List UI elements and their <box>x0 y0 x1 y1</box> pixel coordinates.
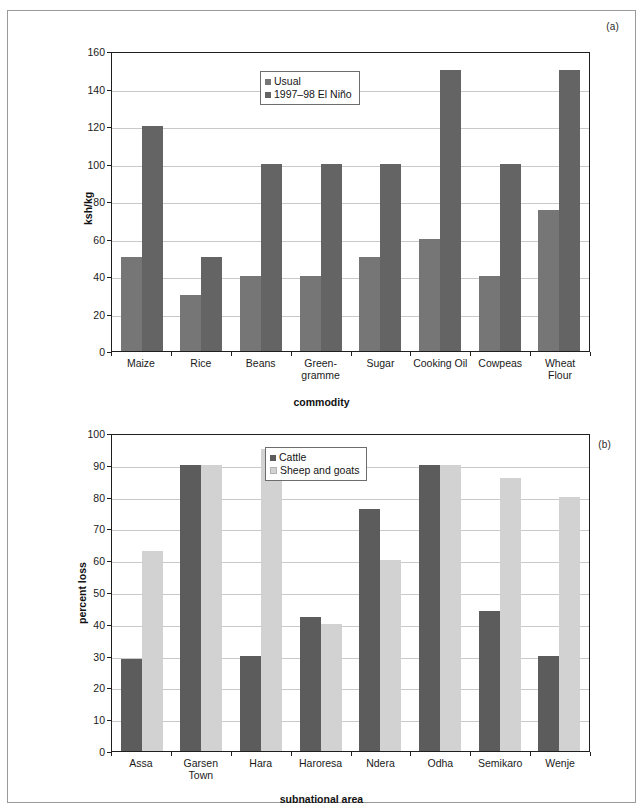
legend-swatch-usual <box>265 79 271 85</box>
bar <box>121 257 142 351</box>
legend-item: Cattle <box>270 451 359 464</box>
bar <box>240 656 261 751</box>
bar-group <box>172 435 232 751</box>
x-axis-tick-mark <box>231 352 232 356</box>
x-axis-tick-mark <box>351 352 352 356</box>
x-axis-tick-label: Green- gramme <box>291 357 351 381</box>
x-axis-tick-mark <box>231 752 232 756</box>
y-axis-tick-label: 80 <box>75 492 105 503</box>
bar <box>500 478 521 751</box>
bar <box>180 295 201 351</box>
bar-groups-b <box>112 435 589 751</box>
y-axis-tick-label: 10 <box>75 715 105 726</box>
y-axis-tick-label: 40 <box>75 620 105 631</box>
y-axis-tick-label: 120 <box>75 122 105 133</box>
x-axis-tick-mark <box>590 352 591 356</box>
x-axis-tick-mark <box>351 752 352 756</box>
y-axis-tick-label: 90 <box>75 461 105 472</box>
y-axis-tick-label: 40 <box>75 272 105 283</box>
plot-area-a: Usual 1997–98 El Niño <box>111 52 590 352</box>
x-axis-tick-label: Rice <box>171 357 231 381</box>
y-axis-tick-label: 60 <box>75 556 105 567</box>
legend-label-cattle: Cattle <box>279 451 306 464</box>
x-axis-labels-b: AssaGarsen TownHaraHaroresaNderaOdhaSemi… <box>111 757 590 781</box>
x-axis-tick-mark <box>410 352 411 356</box>
bar <box>321 164 342 352</box>
x-axis-tick-mark <box>530 352 531 356</box>
bar-group <box>291 435 351 751</box>
bar <box>440 465 461 751</box>
x-axis-tick-mark <box>111 352 112 356</box>
panel-label-b: (b) <box>598 439 611 450</box>
bar <box>300 617 321 751</box>
bar <box>419 239 440 352</box>
bar-group <box>470 435 530 751</box>
plot-area-b: Cattle Sheep and goats <box>111 434 590 752</box>
bar <box>440 70 461 351</box>
bar-group <box>112 53 172 351</box>
y-axis-tick-label: 160 <box>75 47 105 58</box>
x-axis-tick-label: Wenje <box>530 757 590 781</box>
legend-a: Usual 1997–98 El Niño <box>260 71 360 105</box>
x-axis-tick-label: Semikaro <box>470 757 530 781</box>
bar <box>261 449 282 751</box>
bar <box>201 465 222 751</box>
bar <box>142 126 163 351</box>
y-axis-tick-label: 60 <box>75 234 105 245</box>
legend-b: Cattle Sheep and goats <box>265 447 367 481</box>
bar-group <box>410 435 470 751</box>
x-axis-tick-label: Maize <box>111 357 171 381</box>
bar-group <box>172 53 232 351</box>
bar-group <box>231 435 291 751</box>
legend-item: Sheep and goats <box>270 464 359 477</box>
x-axis-tick-label: Haroresa <box>291 757 351 781</box>
bar-group <box>112 435 172 751</box>
x-axis-tick-mark <box>590 752 591 756</box>
x-axis-tick-mark <box>530 752 531 756</box>
x-axis-tick-label: Cowpeas <box>470 357 530 381</box>
bar <box>479 611 500 751</box>
y-axis-tick-label: 20 <box>75 683 105 694</box>
x-axis-tick-mark <box>470 752 471 756</box>
x-axis-tick-label: Beans <box>231 357 291 381</box>
legend-label-usual: Usual <box>274 75 301 88</box>
bar <box>201 257 222 351</box>
bar <box>479 276 500 351</box>
legend-label-sheep: Sheep and goats <box>280 464 359 477</box>
bar <box>538 656 559 751</box>
bar <box>180 465 201 751</box>
chart-panel-a: (a) ksh/kg 020406080100120140160 Usual 1… <box>8 15 635 405</box>
x-axis-tick-mark <box>171 352 172 356</box>
bar-group <box>470 53 530 351</box>
legend-label-elnino: 1997–98 El Niño <box>274 88 352 101</box>
bar <box>240 276 261 351</box>
x-axis-tick-mark <box>470 352 471 356</box>
y-axis-tick-label: 30 <box>75 651 105 662</box>
bar-group <box>529 53 589 351</box>
bar <box>559 497 580 751</box>
panel-label-a: (a) <box>606 21 619 32</box>
legend-swatch-elnino <box>265 92 271 98</box>
bar <box>121 659 142 751</box>
x-axis-tick-label: Garsen Town <box>171 757 231 781</box>
bar-group <box>351 435 411 751</box>
x-axis-tick-mark <box>291 752 292 756</box>
x-axis-tick-label: Odha <box>410 757 470 781</box>
x-axis-title-a: commodity <box>8 396 635 408</box>
bar-group <box>410 53 470 351</box>
x-axis-tick-mark <box>111 752 112 756</box>
x-axis-title-b: subnational area <box>8 793 635 805</box>
x-axis-tick-label: Hara <box>231 757 291 781</box>
legend-swatch-sheep <box>270 467 277 474</box>
y-axis-tick-label: 140 <box>75 84 105 95</box>
y-axis-tick-label: 0 <box>75 347 105 358</box>
x-axis-tick-mark <box>291 352 292 356</box>
y-axis-tick-label: 70 <box>75 524 105 535</box>
bar <box>359 257 380 351</box>
x-axis-tick-label: Ndera <box>351 757 411 781</box>
x-axis-tick-label: Sugar <box>351 357 411 381</box>
y-axis-tick-label: 100 <box>75 159 105 170</box>
legend-swatch-cattle <box>270 455 276 461</box>
bar <box>419 465 440 751</box>
y-axis-tick-label: 100 <box>75 429 105 440</box>
